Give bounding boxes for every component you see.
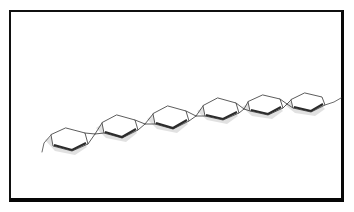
framed-panel [9, 10, 344, 202]
screenshot-root: hexaphenyl chain [0, 0, 354, 212]
ring-shadows [45, 98, 325, 155]
terminal-methyl-right-icon [325, 98, 341, 105]
linker-1-2b [85, 133, 95, 134]
structure-canvas[interactable] [11, 12, 346, 204]
molecule-diagram[interactable] [11, 12, 346, 204]
linker-2-3b [135, 120, 145, 124]
